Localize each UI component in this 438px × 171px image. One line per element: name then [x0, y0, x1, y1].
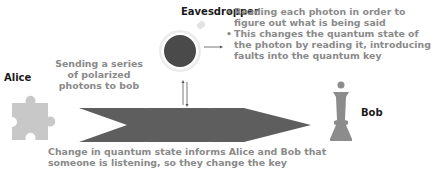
eavesdropper-icon [159, 20, 206, 72]
bob-label: Bob [361, 107, 383, 118]
up-down-arrows-icon [182, 80, 189, 107]
arrow-right-icon [204, 46, 223, 49]
eavesdropper-bullets: Reading each photon in order to figure o… [226, 6, 438, 61]
alice-label: Alice [4, 72, 31, 83]
key-change-text: Change in quantum state informs Alice an… [48, 146, 348, 168]
bullet-item: This changes the quantum state of the ph… [226, 28, 438, 61]
photon-chevrons [79, 108, 311, 142]
bullet-item: Reading each photon in order to figure o… [226, 6, 438, 28]
chess-queen-icon [330, 82, 352, 142]
sending-photons-text: Sending a series of polarized photons to… [50, 58, 148, 91]
puzzle-piece-icon [12, 96, 55, 140]
